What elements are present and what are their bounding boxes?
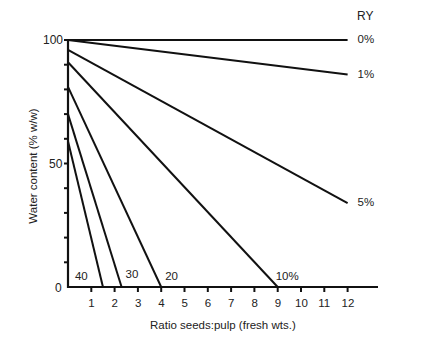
series-line-1pct [68,40,348,75]
x-tick-label: 11 [318,297,330,309]
series-label-10pct: 10% [276,270,299,282]
series-line-30 [68,114,122,287]
series-line-5pct [68,50,348,203]
series-label-40: 40 [75,270,88,282]
series-line-20 [68,87,161,287]
x-tick-label: 4 [158,297,164,309]
series-label-1pct: 1% [358,68,375,80]
y-axis-label: Water content (% w/w) [27,106,39,226]
x-tick-label: 5 [182,297,188,309]
series-label-0pct: 0% [358,33,375,45]
legend-title: RY [357,9,373,23]
series-label-30: 30 [126,268,139,280]
x-tick-label: 2 [112,297,118,309]
series-line-40 [68,141,103,287]
y-tick-label-50: 50 [49,157,62,171]
x-tick-label: 6 [205,297,211,309]
chart-plot-area [0,0,433,343]
y-tick-label-100: 100 [43,33,63,47]
x-tick-label: 10 [295,297,308,309]
x-tick-label: 1 [88,297,94,309]
x-tick-label: 8 [251,297,257,309]
x-tick-label: 9 [275,297,281,309]
y-tick-label-0: 0 [55,281,62,295]
x-tick-label: 7 [228,297,234,309]
series-label-5pct: 5% [358,196,375,208]
series-label-20: 20 [165,270,178,282]
x-axis-label: Ratio seeds:pulp (fresh wts.) [150,319,296,331]
x-tick-label: 12 [342,297,355,309]
series-line-10pct [68,62,278,287]
x-tick-label: 3 [135,297,141,309]
